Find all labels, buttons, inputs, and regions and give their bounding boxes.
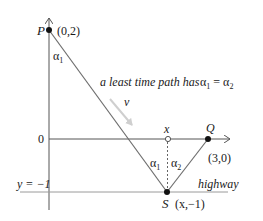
label-x: x: [163, 122, 170, 136]
label-s: S: [162, 196, 169, 211]
annotation-text: a least time path has: [100, 75, 200, 89]
highway-label: highway: [198, 177, 239, 191]
angle-alpha1-bottom: α1: [150, 156, 160, 172]
label-s-coords: (x,−1): [175, 197, 205, 211]
angle-alpha1-top: α1: [53, 49, 63, 65]
diagram-svg: P (0,2) α1 a least time path has α1 = α2…: [0, 0, 263, 221]
angle-alpha2-bottom: α2: [171, 156, 181, 172]
label-p-coords: (0,2): [57, 24, 80, 38]
velocity-label: v: [124, 95, 130, 109]
label-q-coords: (3,0): [208, 151, 231, 165]
point-x-open: [165, 136, 170, 141]
point-p: [46, 27, 52, 33]
highway-y-label: y = −1: [16, 177, 51, 191]
label-p: P: [36, 23, 45, 38]
label-q: Q: [206, 121, 215, 135]
point-q: [205, 136, 211, 142]
least-time-path-diagram: P (0,2) α1 a least time path has α1 = α2…: [0, 0, 263, 221]
point-s: [164, 189, 170, 195]
annotation-equation: α1 = α2: [200, 75, 233, 91]
axis-zero-label: 0: [38, 132, 44, 146]
